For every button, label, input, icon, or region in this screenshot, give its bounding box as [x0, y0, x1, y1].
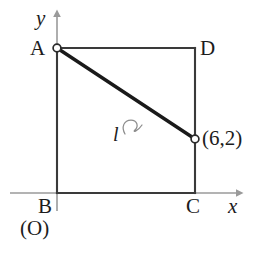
x-axis-label: x [228, 196, 237, 217]
y-axis-arrow-icon [53, 10, 61, 18]
segment-label-l: l [113, 124, 119, 144]
vertex-label-a: A [30, 38, 45, 59]
origin-label: (O) [20, 218, 49, 239]
vertex-label-d: D [200, 38, 215, 59]
point-marker-6-2 [191, 135, 199, 143]
vertex-marker-a [53, 44, 61, 52]
segment-l [57, 48, 195, 139]
geometry-diagram: A D C B (O) y x l (6,2) [0, 0, 256, 254]
leader-line-l [123, 120, 142, 134]
vertex-label-b: B [38, 196, 52, 217]
point-coordinate-label: (6,2) [202, 128, 242, 149]
y-axis-label: y [36, 8, 45, 29]
vertex-label-c: C [186, 196, 200, 217]
square-abcd [57, 48, 195, 193]
